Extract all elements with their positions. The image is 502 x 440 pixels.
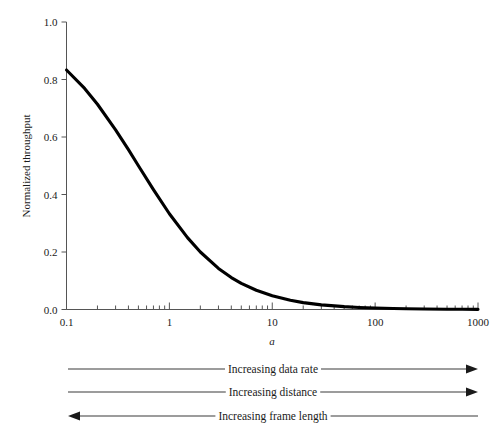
annotation-arrowhead-left-icon [68, 412, 80, 421]
x-tick-label: 0.1 [60, 316, 74, 328]
x-axis-title: a [269, 335, 275, 347]
figure-container: 0.00.20.40.60.81.0 0.11101001000 Normali… [0, 0, 502, 440]
annotation-increasing-distance: Increasing distance [68, 386, 478, 399]
annotation-arrows: Increasing data rateIncreasing distanceI… [68, 363, 478, 423]
y-tick-label: 0.8 [44, 74, 58, 86]
y-tick-label: 0.6 [44, 131, 58, 143]
x-tick-label: 1000 [467, 316, 490, 328]
plot-axes [67, 22, 479, 310]
x-axis-tick-labels: 0.11101001000 [60, 316, 490, 328]
annotation-arrowhead-right-icon [466, 365, 478, 374]
y-tick-label: 0.2 [44, 246, 58, 258]
throughput-curve [67, 70, 479, 309]
y-tick-label: 1.0 [44, 16, 58, 28]
annotation-arrowhead-right-icon [466, 388, 478, 397]
y-axis-title: Normalized throughput [20, 115, 32, 218]
annotation-label: Increasing distance [229, 386, 317, 399]
x-tick-label: 1 [167, 316, 173, 328]
annotation-label: Increasing frame length [218, 410, 327, 423]
y-axis-ticks: 0.00.20.40.60.81.0 [44, 16, 67, 316]
annotation-increasing-frame-length: Increasing frame length [68, 410, 478, 423]
y-tick-label: 0.4 [44, 189, 58, 201]
annotation-label: Increasing data rate [228, 363, 318, 376]
annotation-increasing-data-rate: Increasing data rate [68, 363, 478, 376]
x-tick-label: 100 [367, 316, 384, 328]
x-tick-label: 10 [267, 316, 279, 328]
throughput-vs-a-chart: 0.00.20.40.60.81.0 0.11101001000 Normali… [0, 0, 502, 440]
y-tick-label: 0.0 [44, 304, 58, 316]
